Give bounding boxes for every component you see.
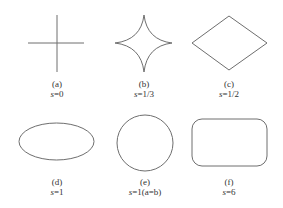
panel-c-caption: (c) s=1/2 <box>189 79 269 99</box>
panel-a-label: (a) <box>17 79 97 89</box>
panel-f-caption: (f) s=6 <box>189 177 269 197</box>
panel-b-label: (b) <box>104 79 184 89</box>
panel-c-param: s=1/2 <box>189 89 269 99</box>
panel-e-caption: (e) s=1(a=b) <box>105 177 185 197</box>
panel-e-param: s=1(a=b) <box>105 187 185 197</box>
panel-d-param: s=1 <box>17 187 97 197</box>
panel-a-caption: (a) s=0 <box>17 79 97 99</box>
panel-f-param: s=6 <box>189 187 269 197</box>
panel-a-param: s=0 <box>17 89 97 99</box>
panel-b-astroid-shape <box>115 15 172 72</box>
panel-e-circle-shape <box>117 115 173 171</box>
panel-f-rounded-rectangle-shape <box>192 119 267 166</box>
panel-d-ellipse-shape <box>19 123 94 160</box>
panel-c-diamond-shape <box>192 16 267 70</box>
panel-f-label: (f) <box>189 177 269 187</box>
panel-d-caption: (d) s=1 <box>17 177 97 197</box>
panel-b-caption: (b) s=1/3 <box>104 79 184 99</box>
panel-a-cross-shape <box>28 15 84 72</box>
panel-e-label: (e) <box>105 177 185 187</box>
panel-c-label: (c) <box>189 79 269 89</box>
panel-b-param: s=1/3 <box>104 89 184 99</box>
panel-d-label: (d) <box>17 177 97 187</box>
